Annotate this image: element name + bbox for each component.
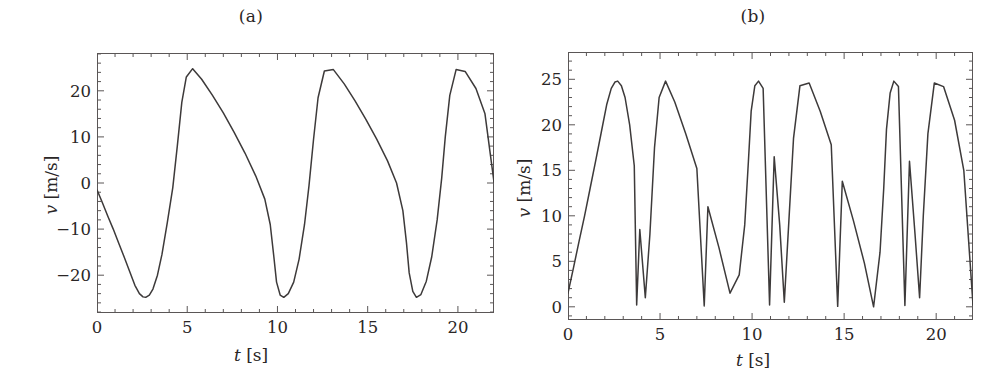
panel-a-yaxis-var: v bbox=[41, 205, 61, 215]
panel-b-xaxis-var: t bbox=[736, 350, 743, 370]
ytick-label: 25 bbox=[516, 70, 562, 89]
panel-a-plot-area bbox=[97, 53, 494, 313]
panel-a-yaxis-title: v [m/s] bbox=[41, 130, 61, 240]
xtick-label: 10 bbox=[742, 325, 763, 344]
xtick-label: 0 bbox=[563, 325, 574, 344]
panel-b-xaxis-title: t [s] bbox=[502, 350, 1004, 370]
ytick-label: −20 bbox=[45, 266, 91, 285]
xtick-label: 0 bbox=[92, 318, 103, 337]
velocity-figure: (a) 05101520 −20−1001020 t [s] v [m/s] (… bbox=[0, 0, 1005, 379]
panel-b-title: (b) bbox=[502, 6, 1004, 26]
xtick-label: 20 bbox=[447, 318, 468, 337]
xtick-label: 10 bbox=[267, 318, 288, 337]
panel-a-xaxis-var: t bbox=[234, 345, 241, 365]
panel-a-yaxis-unit: [m/s] bbox=[41, 156, 61, 200]
panel-a: (a) 05101520 −20−1001020 t [s] v [m/s] bbox=[0, 0, 502, 379]
panel-b-plot-area bbox=[568, 52, 973, 320]
xtick-label: 15 bbox=[834, 325, 855, 344]
panel-a-title: (a) bbox=[0, 6, 502, 26]
xtick-label: 5 bbox=[655, 325, 666, 344]
ytick-label: 20 bbox=[45, 81, 91, 100]
ytick-label: 5 bbox=[516, 252, 562, 271]
panel-b: (b) 05101520 0510152025 t [s] v [m/s] bbox=[502, 0, 1004, 379]
panel-b-canvas bbox=[568, 52, 973, 320]
ytick-label: 20 bbox=[516, 115, 562, 134]
panel-b-yaxis-var: v bbox=[514, 208, 534, 218]
panel-b-yaxis-title: v [m/s] bbox=[514, 133, 534, 243]
panel-b-yaxis-unit: [m/s] bbox=[514, 159, 534, 203]
xtick-label: 15 bbox=[357, 318, 378, 337]
panel-b-xaxis-unit: [s] bbox=[748, 350, 770, 370]
xtick-label: 20 bbox=[926, 325, 947, 344]
panel-a-xaxis-title: t [s] bbox=[0, 345, 502, 365]
panel-a-canvas bbox=[97, 53, 494, 313]
xtick-label: 5 bbox=[182, 318, 193, 337]
ytick-label: 0 bbox=[516, 297, 562, 316]
panel-a-xaxis-unit: [s] bbox=[246, 345, 268, 365]
